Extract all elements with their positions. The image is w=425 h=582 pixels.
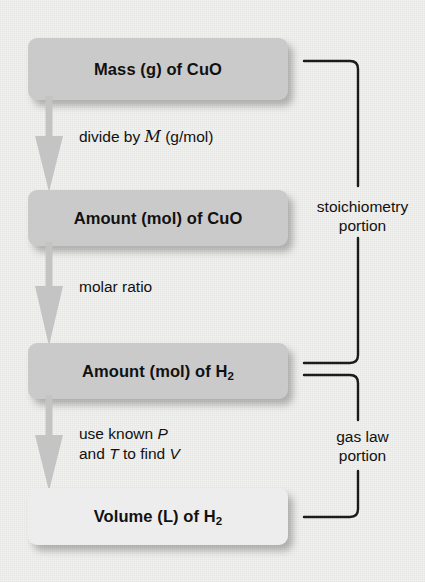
flowchart-node-volume-h2: Volume (L) of H2 [28, 488, 288, 545]
down-arrow-icon-molar-ratio [33, 242, 65, 346]
temperature-symbol: T [109, 445, 118, 462]
flowchart-node-amount-cuo: Amount (mol) of CuO [28, 190, 288, 246]
pressure-symbol: P [157, 425, 167, 442]
subscript-2: 2 [216, 515, 223, 527]
flowchart-node-amount-h2: Amount (mol) of H2 [28, 343, 288, 399]
bracket-label-line-1: gas law [300, 427, 425, 446]
edge-label-line-1: use known P [79, 424, 180, 444]
bracket-label-line-2: portion [300, 216, 425, 235]
node-label-amount-cuo: Amount (mol) of CuO [74, 210, 243, 227]
molar-mass-symbol: M [144, 127, 160, 146]
flowchart-node-mass-cuo: Mass (g) of CuO [28, 38, 288, 100]
bracket-label-line-1: stoichiometry [300, 197, 425, 216]
stoichiometry-flowchart: Mass (g) of CuO divide by M (g/mol) Amou… [0, 0, 425, 582]
node-label-amount-h2: Amount (mol) of H2 [82, 363, 234, 380]
bracket-label-gas-law-portion: gas law portion [300, 427, 425, 465]
edge-label-molar-ratio: molar ratio [79, 277, 152, 297]
edge-label-divide-by-molar-mass: divide by M (g/mol) [79, 126, 213, 147]
subscript-2: 2 [228, 370, 235, 382]
volume-symbol: V [169, 445, 179, 462]
bracket-label-stoichiometry-portion: stoichiometry portion [300, 197, 425, 235]
node-label-mass-cuo: Mass (g) of CuO [94, 61, 222, 78]
node-label-volume-h2: Volume (L) of H2 [94, 508, 223, 525]
edge-label-use-known-p-and-t: use known P and T to find V [79, 424, 180, 465]
down-arrow-icon-divide-by-molar-mass [33, 96, 65, 192]
bracket-label-line-2: portion [300, 446, 425, 465]
down-arrow-icon-gas-law [33, 395, 65, 491]
edge-label-line-2: and T to find V [79, 444, 180, 464]
